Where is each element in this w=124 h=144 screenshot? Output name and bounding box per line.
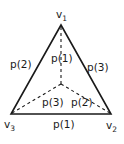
inner-label-v3: p(3)	[42, 96, 64, 108]
inner-label-v2: p(2)	[71, 96, 93, 108]
vertex-label-v1: v1	[56, 8, 67, 23]
edge-label-right: p(3)	[87, 61, 109, 73]
edge-label-bottom: p(1)	[53, 118, 75, 130]
inner-label-v1: p(1)	[51, 52, 73, 64]
edge-label-left: p(2)	[10, 58, 32, 70]
vertex-label-v2: v2	[106, 119, 117, 134]
triangle-diagram: v1 v3 v2 p(2) p(3) p(1) p(1) p(3) p(2)	[0, 0, 124, 144]
vertex-label-v3: v3	[4, 118, 15, 133]
